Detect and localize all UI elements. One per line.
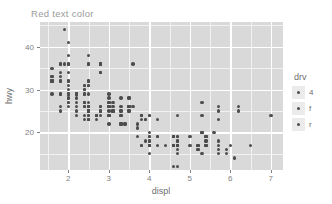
plot-panel	[40, 22, 283, 170]
data-point	[249, 144, 252, 147]
data-point	[87, 79, 90, 82]
data-point	[99, 62, 102, 65]
data-point	[67, 101, 70, 104]
y-tick-label: 30	[25, 85, 34, 94]
gridline-minor-vertical	[251, 22, 252, 170]
data-point	[111, 101, 114, 104]
data-point	[204, 144, 207, 147]
data-point	[107, 105, 110, 108]
x-tick-label: 2	[66, 174, 70, 183]
gridline-major-vertical	[271, 22, 272, 170]
data-point	[83, 114, 86, 117]
data-point	[83, 92, 86, 95]
data-point	[111, 109, 114, 112]
data-point	[176, 144, 179, 147]
data-point	[172, 135, 175, 138]
data-point	[95, 118, 98, 121]
data-point	[172, 144, 175, 147]
y-tick-mark	[37, 90, 40, 91]
data-point	[87, 101, 90, 104]
data-point	[75, 101, 78, 104]
data-point	[107, 114, 110, 117]
data-point	[200, 152, 203, 155]
data-point	[83, 88, 86, 91]
x-tick-mark	[230, 170, 231, 173]
gridline-minor-horizontal	[40, 154, 283, 155]
plot-root: Red text color hwy displ 234567203040 dr…	[0, 0, 332, 204]
gridline-minor-horizontal	[40, 68, 283, 69]
data-point	[217, 105, 220, 108]
data-point	[148, 139, 151, 142]
data-point	[156, 144, 159, 147]
data-point	[87, 114, 90, 117]
legend-point-icon	[297, 107, 300, 110]
x-tick-mark	[271, 170, 272, 173]
data-point	[131, 62, 134, 65]
data-point	[50, 79, 53, 82]
data-point	[217, 118, 220, 121]
data-point	[50, 75, 53, 78]
data-point	[83, 101, 86, 104]
data-point	[188, 135, 191, 138]
data-point	[87, 92, 90, 95]
data-point	[148, 114, 151, 117]
x-tick-label: 5	[188, 174, 192, 183]
legend-item-label: f	[309, 104, 311, 113]
x-tick-label: 4	[147, 174, 151, 183]
data-point	[225, 152, 228, 155]
data-point	[59, 71, 62, 74]
data-point	[83, 84, 86, 87]
x-axis-title: displ	[152, 186, 171, 196]
data-point	[107, 122, 110, 125]
data-point	[119, 122, 122, 125]
data-point	[140, 144, 143, 147]
data-point	[136, 122, 139, 125]
data-point	[75, 114, 78, 117]
data-point	[119, 114, 122, 117]
legend-item-4[interactable]: 4	[292, 86, 330, 99]
data-point	[144, 139, 147, 142]
gridline-major-horizontal	[40, 90, 283, 91]
data-point	[75, 92, 78, 95]
gridline-minor-vertical	[170, 22, 171, 170]
data-point	[59, 62, 62, 65]
gridline-minor-vertical	[89, 22, 90, 170]
data-point	[95, 114, 98, 117]
data-point	[107, 101, 110, 104]
data-point	[140, 118, 143, 121]
data-point	[107, 92, 110, 95]
y-tick-label: 40	[25, 42, 34, 51]
data-point	[63, 62, 66, 65]
data-point	[67, 92, 70, 95]
gridline-minor-vertical	[48, 22, 49, 170]
gridline-major-vertical	[230, 22, 231, 170]
x-tick-label: 6	[228, 174, 232, 183]
legend-item-r[interactable]: r	[292, 118, 330, 131]
data-point	[67, 96, 70, 99]
data-point	[107, 96, 110, 99]
data-point	[176, 139, 179, 142]
gridline-major-horizontal	[40, 132, 283, 133]
data-point	[67, 71, 70, 74]
data-point	[75, 105, 78, 108]
gridline-major-vertical	[149, 22, 150, 170]
data-point	[217, 139, 220, 142]
data-point	[67, 84, 70, 87]
data-point	[144, 118, 147, 121]
data-point	[67, 79, 70, 82]
gridline-minor-vertical	[210, 22, 211, 170]
data-point	[237, 105, 240, 108]
data-point	[59, 105, 62, 108]
legend-item-label: r	[309, 120, 312, 129]
data-point	[217, 148, 220, 151]
data-point	[87, 109, 90, 112]
data-point	[59, 75, 62, 78]
data-point	[87, 118, 90, 121]
y-tick-mark	[37, 47, 40, 48]
data-point	[75, 96, 78, 99]
data-point	[119, 109, 122, 112]
data-point	[188, 144, 191, 147]
data-point	[75, 109, 78, 112]
x-tick-mark	[149, 170, 150, 173]
legend-item-f[interactable]: f	[292, 102, 330, 115]
